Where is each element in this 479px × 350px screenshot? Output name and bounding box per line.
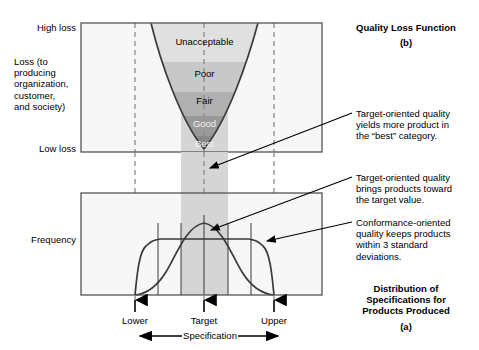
title-distribution-line3: Products Produced <box>336 305 476 316</box>
annotation-best-category: Target-oriented quality yields more prod… <box>356 108 479 142</box>
loss-axis-title: Loss (to producing organization, custome… <box>14 56 84 112</box>
band-label-poor: Poor <box>166 68 243 79</box>
quality-loss-figure: High loss Loss (to producing organizatio… <box>0 0 479 350</box>
annotation-three-sigma: Conformance-oriented quality keeps produ… <box>356 217 479 262</box>
title-distribution-sub: (a) <box>336 321 476 332</box>
x-tick-label-upper: Upper <box>247 315 301 326</box>
annotation-toward-target: Target-oriented quality brings products … <box>356 172 479 206</box>
high-loss-label: High loss <box>2 22 76 33</box>
bottom-panel-plot <box>81 193 322 295</box>
title-distribution-line1: Distribution of <box>336 283 476 294</box>
specification-axis-label: Specification <box>182 330 238 341</box>
title-quality-loss-function-sub: (b) <box>336 37 476 48</box>
frequency-axis-label: Frequency <box>2 234 76 245</box>
band-label-fair: Fair <box>166 95 243 106</box>
x-tick-label-target: Target <box>177 315 231 326</box>
low-loss-label: Low loss <box>2 143 76 154</box>
title-quality-loss-function: Quality Loss Function <box>336 22 476 33</box>
band-label-best: Best <box>166 138 243 149</box>
x-tick-label-lower: Lower <box>108 315 162 326</box>
x-axis-tick-arrows <box>135 300 274 312</box>
title-distribution-line2: Specifications for <box>336 294 476 305</box>
band-label-good: Good <box>166 118 243 129</box>
band-label-unacceptable: Unacceptable <box>152 36 257 47</box>
